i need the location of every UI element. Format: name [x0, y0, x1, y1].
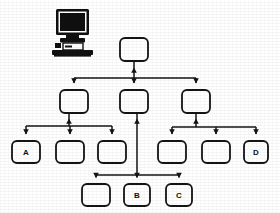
- node-d[interactable]: D: [244, 141, 268, 163]
- node-b0[interactable]: [82, 184, 110, 206]
- node-b[interactable]: B: [124, 184, 150, 206]
- node-b-label: B: [134, 191, 140, 200]
- diagram-canvas: A D: [0, 0, 280, 213]
- node-layer: A D: [12, 38, 268, 206]
- node-a-label: A: [23, 148, 29, 157]
- node-r2[interactable]: [202, 141, 230, 163]
- node-a[interactable]: A: [12, 141, 40, 163]
- node-l2[interactable]: [56, 141, 84, 163]
- node-c-label: C: [176, 191, 182, 200]
- node-root[interactable]: [120, 38, 148, 61]
- node-c[interactable]: C: [166, 184, 192, 206]
- node-m2[interactable]: [120, 90, 148, 113]
- node-m1[interactable]: [60, 90, 88, 113]
- computer-workstation-icon: [52, 9, 93, 57]
- hierarchy-diagram: A D: [0, 0, 280, 213]
- node-d-label: D: [253, 148, 259, 157]
- node-l3[interactable]: [98, 141, 126, 163]
- node-m3[interactable]: [182, 90, 210, 113]
- node-r1[interactable]: [158, 141, 186, 163]
